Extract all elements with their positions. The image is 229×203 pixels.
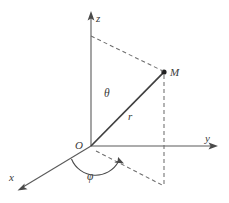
radius-label: r [128, 110, 133, 122]
origin-label: O [75, 139, 83, 151]
dashed-origin-to-projection [96, 151, 164, 186]
phi-angle-arc [72, 159, 119, 175]
radius-vector-group [91, 69, 167, 146]
spherical-coordinates-figure: z y x O M θ r φ [0, 0, 229, 203]
coordinate-diagram-canvas: z y x O M θ r φ [0, 0, 229, 203]
x-axis-label: x [8, 171, 14, 183]
y-axis-label: y [204, 132, 210, 144]
z-axis-label: z [95, 12, 101, 24]
x-axis-arrowhead [18, 183, 28, 190]
dashed-m-to-z-axis [91, 36, 163, 71]
theta-angle-label: θ [104, 87, 110, 99]
phi-angle-group [72, 157, 125, 175]
phi-arc-arrowhead [114, 157, 124, 163]
point-m-label: M [169, 66, 180, 78]
phi-angle-label: φ [87, 170, 94, 183]
x-axis-line [23, 146, 91, 187]
